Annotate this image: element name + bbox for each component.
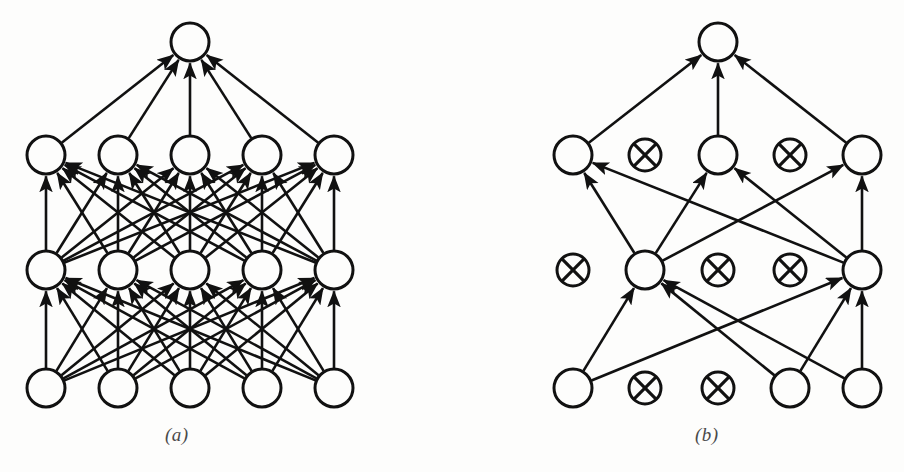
edges-layer — [46, 55, 862, 380]
neuron-node[interactable] — [171, 23, 209, 61]
neuron-node[interactable] — [315, 369, 353, 407]
neuron-node[interactable] — [99, 369, 137, 407]
figure-root: (a) (b) — [0, 0, 904, 472]
neuron-node[interactable] — [843, 369, 881, 407]
connection-edge — [589, 55, 702, 143]
connection-edge — [583, 288, 634, 371]
connection-edge — [735, 55, 847, 143]
panel-b-caption: (b) — [695, 424, 719, 446]
network-diagram-svg — [0, 0, 904, 472]
panel-a-caption: (a) — [165, 424, 189, 446]
neuron-node[interactable] — [554, 136, 592, 174]
neuron-node[interactable] — [626, 251, 664, 289]
neuron-node[interactable] — [243, 369, 281, 407]
neuron-node[interactable] — [27, 251, 65, 289]
neuron-node[interactable] — [315, 136, 353, 174]
neuron-node[interactable] — [843, 136, 881, 174]
neuron-node[interactable] — [699, 136, 737, 174]
neuron-node[interactable] — [843, 251, 881, 289]
neuron-node[interactable] — [699, 23, 737, 61]
neuron-node[interactable] — [99, 251, 137, 289]
dropped-neuron-node[interactable] — [774, 139, 806, 171]
connection-edge — [663, 165, 844, 261]
neuron-node[interactable] — [171, 136, 209, 174]
dropped-neuron-node[interactable] — [629, 139, 661, 171]
connection-edge — [584, 173, 634, 253]
neuron-node[interactable] — [171, 251, 209, 289]
neuron-node[interactable] — [771, 369, 809, 407]
connection-edge — [664, 280, 845, 378]
neuron-node[interactable] — [243, 136, 281, 174]
dropped-neuron-node[interactable] — [702, 372, 734, 404]
neuron-node[interactable] — [99, 136, 137, 174]
dropped-neuron-node[interactable] — [774, 254, 806, 286]
neuron-node[interactable] — [315, 251, 353, 289]
connection-edge — [62, 55, 174, 143]
neuron-node[interactable] — [171, 369, 209, 407]
connection-edge — [661, 283, 774, 375]
dropped-neuron-node[interactable] — [557, 254, 589, 286]
dropped-neuron-node[interactable] — [702, 254, 734, 286]
neuron-node[interactable] — [243, 251, 281, 289]
neuron-node[interactable] — [27, 369, 65, 407]
neuron-node[interactable] — [27, 136, 65, 174]
connection-edge — [207, 55, 319, 143]
dropped-neuron-node[interactable] — [629, 372, 661, 404]
neuron-node[interactable] — [554, 369, 592, 407]
